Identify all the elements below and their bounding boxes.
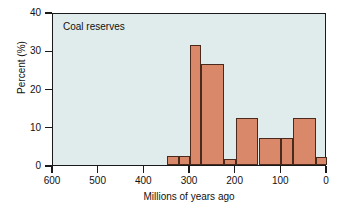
histogram-bar: [293, 118, 316, 165]
x-axis-tick-label: 100: [260, 175, 300, 186]
x-axis-tick-label: 300: [169, 175, 209, 186]
x-axis-title: Millions of years ago: [52, 191, 326, 202]
x-axis-tick-label: 200: [215, 175, 255, 186]
x-axis-tick-label: 500: [78, 175, 118, 186]
y-axis-tick-label: 10: [0, 123, 41, 133]
x-axis-tick: [97, 166, 98, 173]
x-axis-tick: [188, 166, 189, 173]
bars-layer: [53, 14, 325, 165]
y-axis-tick: [45, 89, 52, 90]
y-axis-tick: [45, 127, 52, 128]
y-axis-tick-label: 0: [0, 161, 41, 171]
histogram-bar: [281, 138, 292, 165]
x-axis-tick: [143, 166, 144, 173]
chart-figure: Percent (%) Coal reserves 01020304060050…: [0, 0, 339, 211]
y-axis-tick-label: 40: [0, 8, 41, 18]
x-axis-tick-label: 400: [123, 175, 163, 186]
y-axis-tick: [45, 51, 52, 52]
chart-annotation: Coal reserves: [63, 21, 125, 32]
y-axis-tick: [45, 12, 52, 13]
histogram-bar: [201, 64, 224, 165]
y-axis-tick: [45, 165, 52, 166]
x-axis-tick: [51, 166, 52, 173]
histogram-bar: [179, 156, 190, 165]
histogram-bar: [167, 156, 178, 165]
histogram-bar: [190, 45, 201, 165]
histogram-bar: [236, 118, 259, 165]
y-axis-title: Percent (%): [16, 18, 27, 118]
plot-area: Coal reserves: [52, 13, 326, 166]
histogram-bar: [259, 138, 282, 165]
x-axis-tick: [280, 166, 281, 173]
histogram-bar: [224, 159, 235, 165]
x-axis-tick-label: 600: [32, 175, 72, 186]
x-axis-tick: [234, 166, 235, 173]
x-axis-tick: [325, 166, 326, 173]
x-axis-tick-label: 0: [306, 175, 339, 186]
histogram-bar: [316, 157, 327, 165]
